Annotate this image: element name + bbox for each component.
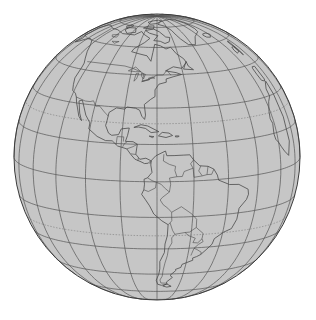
globe-svg — [0, 0, 316, 320]
globe-map — [0, 0, 316, 320]
